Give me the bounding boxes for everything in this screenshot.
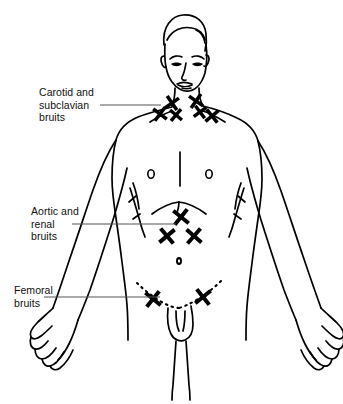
carotid-subclavian-label-line2: subclavian: [39, 99, 89, 111]
bruit-marker-x: [205, 109, 218, 122]
aortic-renal-label-text: Aortic and: [31, 205, 79, 217]
femoral-label: Femoralbruits: [14, 284, 53, 309]
bruit-marker-x: [195, 289, 210, 304]
aortic-renal-label-line3: bruits: [31, 230, 57, 242]
illustration-canvas: Carotid andsubclavianbruits Aortic andre…: [0, 0, 343, 404]
bruit-marker-x: [159, 228, 174, 243]
bruit-marker-x: [187, 229, 202, 244]
femoral-label-text: Femoral: [14, 284, 53, 296]
aortic-renal-label-line2: renal: [31, 218, 55, 230]
marker-group-aortic-renal: [159, 209, 201, 243]
nipple-left: [148, 170, 154, 178]
bruit-marker-x: [145, 291, 160, 306]
femoral-label-line2: bruits: [14, 297, 40, 309]
aortic-renal-label: Aortic andrenalbruits: [31, 205, 79, 243]
carotid-subclavian-label-line3: bruits: [39, 111, 65, 123]
body-diagram: [0, 0, 343, 404]
bruit-marker-x: [173, 209, 188, 224]
nipple-right: [206, 170, 212, 178]
marker-group-femoral: [145, 289, 210, 306]
bruit-marker-x: [170, 109, 182, 121]
face-features: [170, 56, 204, 89]
carotid-subclavian-label-text: Carotid and: [39, 86, 94, 98]
carotid-subclavian-label: Carotid andsubclavianbruits: [39, 86, 94, 124]
navel: [176, 257, 182, 265]
bruit-markers: [145, 94, 218, 307]
leader-lines: [44, 105, 176, 297]
